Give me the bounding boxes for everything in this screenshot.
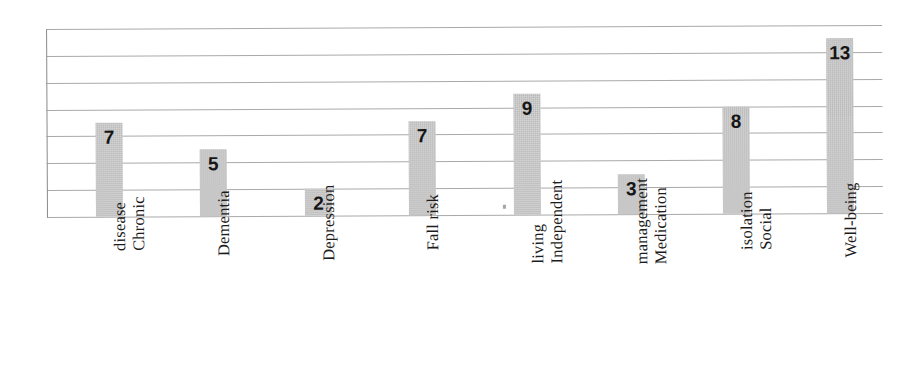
category-label-line: Medication — [650, 187, 669, 264]
category-label-line: disease — [109, 202, 128, 251]
category-label: Well-being — [827, 220, 855, 370]
scan-artifact-speck — [503, 205, 506, 209]
category-label-text: Depression — [318, 185, 337, 261]
bar-value-label: 5 — [200, 154, 227, 173]
category-label-text: Independentliving — [527, 180, 565, 264]
bar-value-label: 7 — [96, 128, 123, 147]
category-label-line: Chronic — [128, 196, 147, 251]
gridline — [47, 132, 883, 137]
category-label: Fall risk — [409, 222, 437, 372]
category-label-line: living — [528, 224, 547, 264]
category-label: Chronicdisease — [96, 224, 124, 374]
category-label-line: management — [631, 178, 650, 264]
category-label-text: Socialisolation — [736, 191, 774, 250]
category-label: Dementia — [200, 223, 228, 373]
category-label-text: Chronicdisease — [109, 196, 147, 251]
gridline — [46, 79, 882, 84]
category-label-line: isolation — [736, 191, 755, 250]
x-axis-category-labels: ChronicdiseaseDementiaDepressionFall ris… — [47, 220, 884, 380]
category-label: Independentliving — [514, 222, 542, 372]
category-label-text: Dementia — [213, 190, 232, 256]
category-label-line: Independent — [546, 180, 565, 264]
scan-skew-wrapper: 752793813 ChronicdiseaseDementiaDepressi… — [0, 0, 922, 383]
bar-value-label: 8 — [722, 111, 749, 130]
gridline — [46, 52, 882, 57]
category-label-text: Fall risk — [422, 194, 441, 250]
category-label-line: Depression — [318, 185, 337, 261]
category-label: Medicationmanagement — [618, 221, 646, 371]
gridline — [46, 106, 882, 111]
bar-chart-figure: 752793813 ChronicdiseaseDementiaDepressi… — [0, 0, 922, 383]
bar-value-label: 9 — [513, 99, 540, 118]
category-label: Socialisolation — [723, 221, 751, 371]
category-label: Depression — [305, 223, 333, 373]
bar-value-label: 7 — [409, 126, 436, 145]
gridline — [46, 25, 882, 30]
category-label-line: Fall risk — [422, 194, 441, 250]
gridline — [47, 159, 883, 164]
category-label-line: Social — [755, 207, 774, 250]
plot-area: 752793813 — [46, 25, 883, 217]
category-label-line: Well-being — [840, 183, 859, 258]
category-label-text: Medicationmanagement — [631, 178, 669, 264]
category-label-line: Dementia — [213, 190, 232, 256]
bar-value-label: 13 — [826, 44, 853, 63]
category-label-text: Well-being — [840, 183, 859, 258]
